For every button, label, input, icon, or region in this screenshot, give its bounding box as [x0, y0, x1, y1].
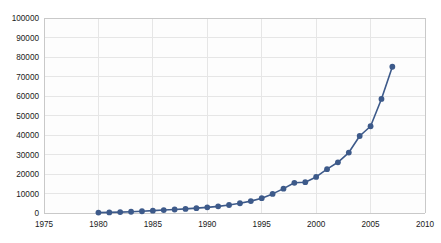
data-point-marker: [194, 205, 200, 211]
data-point-marker: [128, 209, 134, 215]
data-point-marker: [379, 96, 385, 102]
data-point-marker: [335, 159, 341, 165]
data-point-marker: [313, 174, 319, 180]
y-axis-tick-label: 50000: [16, 112, 39, 121]
x-axis-tick-label: 1985: [144, 220, 163, 229]
y-axis-tick-label: 30000: [16, 151, 39, 160]
data-point-marker: [183, 206, 189, 212]
data-point-marker: [215, 203, 221, 209]
data-point-marker: [172, 207, 178, 213]
x-axis-tick-labels: 19751980198519901995200020052010: [35, 220, 435, 229]
x-axis-tick-label: 2010: [416, 220, 435, 229]
y-axis-tick-labels: 0100002000030000400005000060000700008000…: [12, 14, 40, 218]
data-point-marker: [150, 208, 156, 214]
y-axis-tick-label: 70000: [16, 73, 39, 82]
data-point-marker: [324, 166, 330, 172]
data-point-marker: [368, 123, 374, 129]
chart-container: 0100002000030000400005000060000700008000…: [0, 0, 441, 243]
y-axis-tick-label: 90000: [16, 34, 39, 43]
y-axis-tick-label: 0: [34, 209, 39, 218]
x-axis-tick-label: 1995: [253, 220, 272, 229]
y-axis-tick-label: 10000: [16, 190, 39, 199]
data-point-marker: [161, 207, 167, 213]
x-axis-tick-label: 1975: [35, 220, 54, 229]
data-point-marker: [96, 210, 102, 216]
data-point-marker: [270, 191, 276, 197]
data-point-marker: [117, 209, 123, 215]
data-point-marker: [204, 204, 210, 210]
data-point-marker: [357, 133, 363, 139]
y-axis-tick-label: 40000: [16, 131, 39, 140]
data-point-marker: [259, 195, 265, 201]
data-point-marker: [346, 150, 352, 156]
line-chart-plot: 0100002000030000400005000060000700008000…: [0, 0, 441, 243]
data-point-marker: [302, 179, 308, 185]
y-axis-tick-label: 20000: [16, 170, 39, 179]
data-point-marker: [389, 64, 395, 70]
y-axis-tick-label: 100000: [12, 14, 40, 23]
data-point-marker: [139, 208, 145, 214]
data-point-marker: [291, 180, 297, 186]
y-axis-tick-label: 60000: [16, 92, 39, 101]
data-point-marker: [237, 200, 243, 206]
x-axis-tick-label: 1990: [198, 220, 217, 229]
x-axis-tick-label: 2005: [361, 220, 380, 229]
x-axis-tick-label: 2000: [307, 220, 326, 229]
data-point-marker: [106, 210, 112, 216]
data-point-marker: [226, 202, 232, 208]
x-axis-tick-label: 1980: [89, 220, 108, 229]
y-axis-tick-label: 80000: [16, 53, 39, 62]
data-point-marker: [248, 198, 254, 204]
data-point-marker: [281, 186, 287, 192]
